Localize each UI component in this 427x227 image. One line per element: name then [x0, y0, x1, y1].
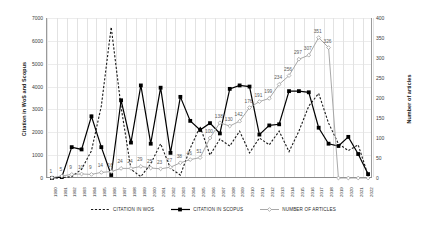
series-marker-1 [119, 98, 123, 102]
y-tick-right: 200 [376, 95, 400, 101]
series-marker-1 [267, 124, 271, 128]
x-tick-label: 2013 [280, 187, 285, 197]
x-tick-label: 2010 [250, 187, 255, 197]
data-label: 234 [274, 75, 282, 80]
series-marker-2 [366, 176, 370, 180]
series-marker-2 [80, 172, 84, 176]
series-marker-1 [257, 133, 261, 137]
series-marker-1 [80, 148, 84, 152]
series-marker-2 [139, 165, 143, 169]
x-tick-label: 2021 [359, 187, 364, 197]
series-marker-1 [139, 84, 143, 88]
gray-diamond-line-key [260, 206, 279, 213]
series-marker-2 [99, 171, 103, 175]
x-tick-label: 1998 [132, 187, 137, 197]
series-marker-1 [248, 85, 252, 89]
series-marker-2 [188, 158, 192, 162]
y-tick-left: 4000 [19, 84, 43, 90]
series-marker-2 [149, 166, 153, 170]
x-tick-label: 2016 [310, 187, 315, 197]
x-tick-label: 1996 [112, 187, 117, 197]
data-label: 199 [264, 89, 272, 94]
x-tick-label: 2008 [231, 187, 236, 197]
data-label: 191 [254, 93, 262, 98]
series-marker-2 [159, 167, 163, 171]
x-tick-label: 1994 [92, 187, 97, 197]
series-marker-1 [208, 121, 212, 125]
series-marker-2 [297, 57, 301, 61]
legend-label: CITATION IN SCOPUS [193, 207, 243, 212]
legend-label: NUMBER OF ARTICLES [282, 207, 336, 212]
data-label: 24 [127, 159, 132, 164]
x-tick-label: 2019 [339, 187, 344, 197]
x-tick-label: 2006 [211, 187, 216, 197]
legend-item[interactable]: CITATION IN SCOPUS [171, 206, 243, 213]
series-marker-1 [70, 145, 74, 149]
data-label: 9 [69, 165, 72, 170]
x-tick-label: 2020 [349, 187, 354, 197]
data-label: 1 [50, 169, 53, 174]
data-label: 16 [108, 163, 113, 168]
series-marker-2 [346, 176, 350, 180]
legend-item[interactable]: NUMBER OF ARTICLES [260, 206, 336, 213]
x-tick-label: 2001 [161, 187, 166, 197]
x-tick-label: 1999 [142, 187, 147, 197]
data-label: 51 [196, 149, 201, 154]
x-tick-label: 2005 [201, 187, 206, 197]
series-marker-2 [337, 176, 341, 180]
x-tick-label: 2018 [329, 187, 334, 197]
legend-label: CITATION IN WOS [113, 207, 154, 212]
series-marker-2 [90, 173, 94, 177]
y-tick-left: 6000 [19, 38, 43, 44]
x-tick-label: 2002 [171, 187, 176, 197]
y-tick-left: 2000 [19, 129, 43, 135]
data-label: 24 [117, 159, 122, 164]
series-marker-1 [356, 152, 360, 156]
x-tick-label: 2011 [260, 188, 265, 197]
data-label: 5 [59, 167, 62, 172]
data-label: 307 [304, 46, 312, 51]
data-label: 138 [215, 114, 223, 119]
x-tick-label: 2003 [181, 187, 186, 197]
dashed-line-key [91, 206, 110, 213]
data-label: 351 [314, 29, 322, 34]
series-marker-1 [188, 119, 192, 123]
y-tick-right: 250 [376, 75, 400, 81]
series-marker-1 [277, 122, 281, 126]
y-tick-left: 0 [19, 175, 43, 181]
series-marker-1 [287, 89, 291, 93]
series-marker-2 [178, 161, 182, 165]
data-label: 130 [225, 117, 233, 122]
x-tick-label: 1992 [72, 187, 77, 197]
series-marker-1 [366, 172, 370, 176]
data-label: 9 [89, 165, 92, 170]
series-marker-1 [238, 84, 242, 88]
series-marker-2 [228, 124, 232, 128]
legend-item[interactable]: CITATION IN WOS [91, 206, 154, 213]
data-label: 142 [235, 112, 243, 117]
chart-container: Citation in WoS and Scopus Number of art… [0, 0, 427, 227]
chart-legend: CITATION IN WOSCITATION IN SCOPUSNUMBER … [0, 206, 427, 213]
gridline-vertical [373, 18, 374, 177]
series-marker-1 [178, 95, 182, 99]
series-marker-1 [228, 87, 232, 91]
solid-square-line-key [171, 206, 190, 213]
x-tick-label: 1990 [53, 187, 58, 197]
data-label: 176 [244, 99, 252, 104]
y-axis-right-title: Number of articles [406, 39, 412, 159]
y-tick-left: 7000 [19, 15, 43, 21]
series-marker-2 [307, 53, 311, 57]
x-tick-label: 1991 [63, 187, 68, 197]
y-tick-right: 50 [376, 155, 400, 161]
data-label: 23 [157, 160, 162, 165]
x-tick-label: 1995 [102, 187, 107, 197]
x-tick-label: 2014 [290, 187, 295, 197]
y-tick-left: 1000 [19, 152, 43, 158]
y-tick-left: 5000 [19, 61, 43, 67]
data-label: 100 [205, 129, 213, 134]
data-label: 10 [78, 165, 83, 170]
y-tick-right: 400 [376, 15, 400, 21]
series-marker-1 [149, 142, 153, 146]
series-marker-1 [327, 142, 331, 146]
series-marker-1 [297, 89, 301, 93]
